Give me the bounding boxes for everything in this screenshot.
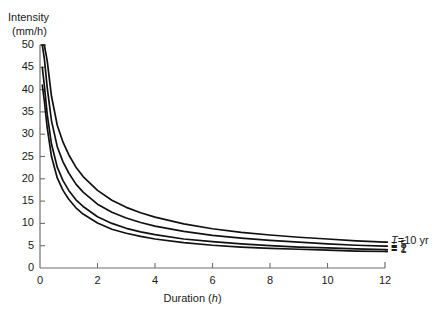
y-tick-label: 45 xyxy=(8,60,34,72)
x-tick-label: 2 xyxy=(88,274,108,286)
x-axis-label: Duration (h) xyxy=(0,292,385,304)
legend-line-marks xyxy=(385,242,388,251)
y-tick-label: 10 xyxy=(8,216,34,228)
y-tick-label: 20 xyxy=(8,172,34,184)
curve-group xyxy=(42,45,385,252)
y-tick-label: 5 xyxy=(8,239,34,251)
x-axis-label-text: Duration ( xyxy=(163,292,211,304)
x-tick-label: 10 xyxy=(318,274,338,286)
x-tick-label: 8 xyxy=(260,274,280,286)
y-tick-label: 25 xyxy=(8,150,34,162)
axes xyxy=(40,45,385,268)
y-tick-label: 0 xyxy=(8,261,34,273)
x-tick-label: 0 xyxy=(30,274,50,286)
y-tick-label: 40 xyxy=(8,83,34,95)
x-tick-label: 4 xyxy=(145,274,165,286)
y-tick-label: 35 xyxy=(8,105,34,117)
idf-curve-chart: Intensity (mm/h) 05101520253035404550 02… xyxy=(0,0,441,321)
x-tick-label: 6 xyxy=(203,274,223,286)
y-tick-label: 30 xyxy=(8,127,34,139)
legend-item-label: = 1 xyxy=(391,243,407,255)
y-tick-label: 50 xyxy=(8,38,34,50)
plot-area xyxy=(0,0,441,321)
x-axis-label-paren: ) xyxy=(218,292,222,304)
y-tick-label: 15 xyxy=(8,194,34,206)
legend-item: = 1 xyxy=(391,243,407,255)
x-tick-label: 12 xyxy=(375,274,395,286)
